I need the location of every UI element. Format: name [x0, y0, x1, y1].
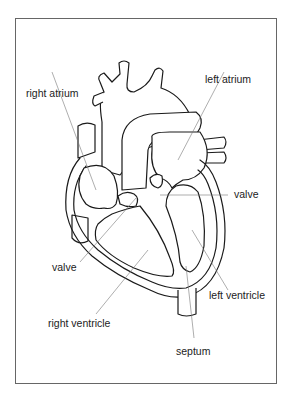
label-valve-left: valve — [52, 262, 77, 273]
descending-aorta — [178, 288, 196, 316]
label-valve-right: valve — [234, 189, 259, 200]
label-left-atrium: left atrium — [205, 74, 251, 85]
inferior-vena-cava — [72, 215, 88, 243]
label-left-ventricle: left ventricle — [209, 290, 265, 301]
right-ventricle-chamber — [95, 206, 173, 276]
label-septum: septum — [176, 346, 210, 357]
label-right-ventricle: right ventricle — [48, 318, 110, 329]
superior-vena-cava — [78, 123, 95, 158]
left-ventricle-chamber — [166, 185, 204, 272]
mitral-valve — [150, 174, 163, 188]
label-right-atrium: right atrium — [26, 88, 79, 99]
